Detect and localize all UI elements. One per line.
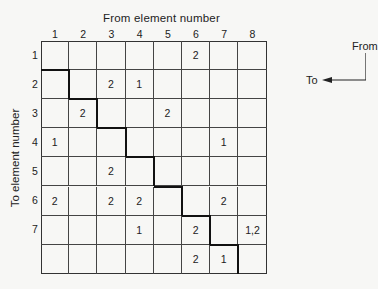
matrix-cell (97, 216, 125, 245)
row-label: 5 (30, 165, 40, 177)
matrix-cell: 1 (126, 216, 154, 245)
legend: From To (300, 40, 366, 90)
matrix-cell (126, 41, 154, 70)
row-label: 3 (30, 107, 40, 119)
diagonal-step (96, 98, 98, 128)
matrix-cell: 1 (41, 128, 69, 157)
matrix-cell (97, 41, 125, 70)
matrix-cell (210, 70, 238, 99)
diagonal-step (153, 156, 155, 186)
diagonal-step (68, 69, 70, 99)
column-label: 2 (69, 28, 97, 40)
matrix-cell (97, 99, 125, 128)
precedence-matrix: 221221122222121,221 (41, 41, 267, 274)
matrix-cell (238, 245, 266, 274)
matrix-cell (126, 157, 154, 186)
matrix-cell: 2 (97, 157, 125, 186)
matrix-cell (126, 245, 154, 274)
matrix-cell (154, 70, 182, 99)
matrix-cell: 2 (69, 99, 97, 128)
diagonal-step (210, 244, 239, 246)
matrix-cell (154, 245, 182, 274)
matrix-cell (182, 70, 210, 99)
matrix-cell (154, 41, 182, 70)
matrix-cell: 1 (210, 245, 238, 274)
matrix-cell (182, 187, 210, 216)
matrix-cell (69, 187, 97, 216)
matrix-cell (126, 128, 154, 157)
matrix-cell (41, 70, 69, 99)
matrix-cell (41, 157, 69, 186)
matrix-cell: 2 (41, 187, 69, 216)
diagonal-step (126, 156, 155, 158)
matrix-cell (182, 157, 210, 186)
row-label: 1 (30, 49, 40, 61)
row-label: 2 (30, 78, 40, 90)
diagram-title-left: To element number (9, 109, 21, 207)
matrix-cell (41, 216, 69, 245)
diagonal-step (125, 127, 127, 157)
matrix-cell (210, 216, 238, 245)
matrix-cell (154, 187, 182, 216)
matrix-cell: 2 (210, 187, 238, 216)
matrix-cell: 1 (210, 128, 238, 157)
matrix-cell (97, 245, 125, 274)
matrix-cell: 2 (182, 245, 210, 274)
matrix-cell (182, 128, 210, 157)
diagonal-step (69, 98, 98, 100)
matrix-cell: 1,2 (238, 216, 266, 245)
column-label: 5 (154, 28, 182, 40)
column-label: 6 (182, 28, 210, 40)
matrix-cell (210, 41, 238, 70)
column-label: 8 (238, 28, 266, 40)
matrix-cell (41, 245, 69, 274)
column-label: 1 (41, 28, 69, 40)
matrix-cell (41, 41, 69, 70)
matrix-cell (69, 245, 97, 274)
matrix-cell (154, 216, 182, 245)
matrix-cell (69, 157, 97, 186)
matrix-cell (69, 70, 97, 99)
matrix-cell (238, 99, 266, 128)
column-label: 4 (126, 28, 154, 40)
matrix-cell: 2 (182, 41, 210, 70)
matrix-cell: 2 (126, 187, 154, 216)
matrix-cell: 2 (97, 187, 125, 216)
matrix-cell (238, 70, 266, 99)
matrix-cell (69, 216, 97, 245)
diagonal-step (209, 215, 211, 245)
diagonal-step (154, 186, 183, 188)
matrix-cell (41, 99, 69, 128)
column-labels: 12345678 (41, 28, 268, 40)
row-labels: 1234567 (30, 41, 40, 275)
row-label: 6 (30, 194, 40, 206)
column-label: 3 (97, 28, 125, 40)
column-label: 7 (210, 28, 238, 40)
matrix-cell (238, 128, 266, 157)
matrix-cell: 2 (97, 70, 125, 99)
matrix-cell: 1 (126, 70, 154, 99)
diagonal-step (181, 186, 183, 216)
row-label: 4 (30, 136, 40, 148)
matrix-cell (238, 187, 266, 216)
diagonal-step (237, 244, 239, 274)
matrix-cell (210, 99, 238, 128)
matrix-cell (69, 41, 97, 70)
diagonal-step (182, 215, 211, 217)
row-label: 7 (30, 223, 40, 235)
matrix-cell (154, 128, 182, 157)
matrix-cell (69, 128, 97, 157)
matrix-cell (238, 41, 266, 70)
matrix-cell (97, 128, 125, 157)
matrix-cell (154, 157, 182, 186)
matrix-cell (238, 157, 266, 186)
diagonal-step (41, 69, 70, 71)
diagonal-step (97, 127, 126, 129)
matrix-cell (126, 99, 154, 128)
elbow-arrow-left-icon (300, 40, 366, 90)
matrix-cell: 2 (182, 216, 210, 245)
matrix-cell (210, 157, 238, 186)
diagram-title-top: From element number (103, 12, 220, 24)
matrix-cell (182, 99, 210, 128)
matrix-cell: 2 (154, 99, 182, 128)
